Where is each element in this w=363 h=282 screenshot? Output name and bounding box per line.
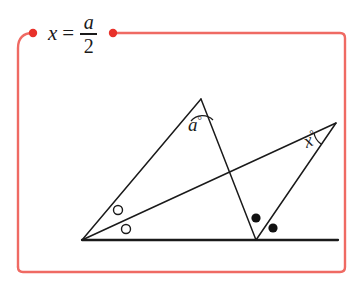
apex-angle-variable: a bbox=[188, 114, 198, 135]
left-to-apex-segment bbox=[82, 99, 201, 240]
apex-degree-symbol: ° bbox=[198, 114, 202, 126]
formula-fraction: a 2 bbox=[80, 12, 97, 56]
transversal-segment bbox=[82, 123, 336, 240]
geometry-problem-card: a° x° x = a 2 bbox=[0, 0, 363, 282]
answer-formula: x = a 2 bbox=[44, 8, 101, 58]
apex-to-v-segment bbox=[201, 99, 256, 240]
v-to-right-segment bbox=[256, 123, 336, 240]
fraction-denominator: 2 bbox=[81, 35, 97, 56]
formula-left-variable: x bbox=[48, 21, 57, 46]
open-circle-mark-2-icon bbox=[122, 225, 131, 234]
formula-equals-sign: = bbox=[62, 21, 74, 46]
apex-angle-label: a° bbox=[188, 114, 202, 136]
open-circle-mark-1-icon bbox=[114, 206, 123, 215]
filled-dot-mark-2-icon bbox=[268, 223, 277, 232]
filled-dot-mark-1-icon bbox=[251, 213, 260, 222]
fraction-numerator: a bbox=[81, 12, 97, 33]
